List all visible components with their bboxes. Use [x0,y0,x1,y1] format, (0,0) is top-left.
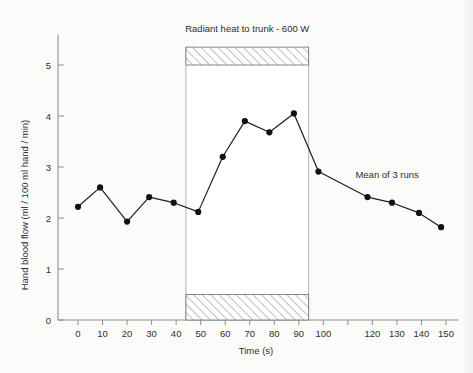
y-tick-label: 0 [46,315,51,326]
y-tick-label: 1 [46,264,51,275]
blood-flow-chart-figure: 012345 010203040506070809010012013014015… [0,0,473,373]
x-tick-label: 60 [220,328,231,339]
x-tick-label: 90 [294,328,305,339]
y-tick-label: 4 [46,111,51,122]
x-tick-label: 140 [414,328,430,339]
x-tick-label: 100 [315,328,331,339]
x-tick-label: 30 [146,328,157,339]
data-point [242,118,248,124]
y-tick-label: 5 [46,60,51,71]
data-point [315,168,321,174]
x-tick-label: 70 [244,328,255,339]
x-tick-label: 130 [389,328,405,339]
data-point [124,218,130,224]
data-point [416,210,422,216]
chart-canvas: 012345 010203040506070809010012013014015… [0,0,473,373]
data-point [266,129,272,135]
x-tick-label: 0 [75,328,80,339]
data-point [220,154,226,160]
data-point [146,194,152,200]
data-point [97,184,103,190]
x-tick-label: 80 [269,328,280,339]
x-tick-label: 150 [438,328,454,339]
x-tick-label: 50 [195,328,206,339]
data-point [171,200,177,206]
heating-period-band [186,47,309,320]
data-point [389,200,395,206]
heating-period-label: Radiant heat to trunk - 600 W [185,23,309,34]
band-fill [186,47,309,320]
data-point [291,110,297,116]
mean-of-runs-label: Mean of 3 runs [355,169,419,180]
data-point [195,209,201,215]
x-tick-label: 40 [171,328,182,339]
x-axis-title: Time (s) [239,345,273,356]
x-tick-label: 120 [364,328,380,339]
data-point [75,204,81,210]
x-tick-label: 20 [122,328,133,339]
y-axis-title: Hand blood flow (ml / 100 ml hand / min) [19,120,30,291]
data-point [364,194,370,200]
bottom-hatch-bar [186,295,309,321]
x-tick-label: 10 [97,328,108,339]
data-point [438,224,444,230]
top-hatch-bar [186,47,309,65]
y-tick-label: 2 [46,213,51,224]
y-tick-label: 3 [46,162,51,173]
